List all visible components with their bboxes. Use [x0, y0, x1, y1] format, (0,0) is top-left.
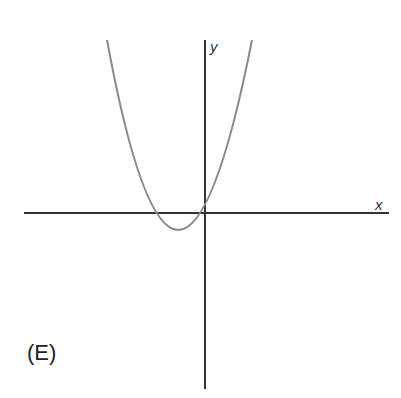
y-axis-label: y: [210, 38, 218, 55]
x-axis-label: x: [375, 196, 383, 213]
graph-canvas: [0, 0, 401, 398]
parabola-curve: [107, 40, 252, 230]
panel-label: (E): [27, 340, 56, 366]
